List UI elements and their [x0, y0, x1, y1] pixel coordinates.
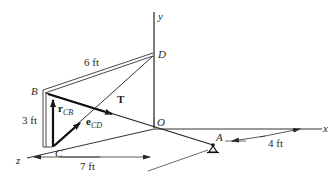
unit-vector-eCD: [54, 123, 80, 146]
bar-BD-edge2: [45, 56, 153, 93]
tension-label-T: T: [117, 93, 125, 105]
dim-label-3ft: 3 ft: [22, 114, 37, 126]
A-guide-line: [148, 150, 208, 171]
point-label-A: A: [215, 131, 223, 143]
y-axis-label: y: [157, 10, 163, 22]
pin-support-A: [207, 143, 219, 152]
origin-label-O: O: [157, 116, 165, 128]
z-axis-label: z: [15, 154, 21, 166]
point-label-B: B: [31, 85, 38, 97]
dim-label-7ft: 7 ft: [80, 160, 95, 172]
statics-diagram: y x z O D 6 ft B C 3 ft T rCB eCD A: [0, 0, 332, 178]
x-axis-label: x: [322, 122, 328, 134]
dim-label-6ft: 6 ft: [84, 56, 99, 68]
dim-label-4ft: 4 ft: [268, 137, 283, 149]
rCB-sub: CB: [63, 108, 73, 117]
rCB-label: rCB: [58, 102, 73, 117]
point-label-D: D: [157, 48, 166, 60]
dim-line-4ft-b: [260, 129, 300, 137]
eCD-label: eCD: [86, 115, 102, 130]
eCD-sub: CD: [91, 121, 102, 130]
